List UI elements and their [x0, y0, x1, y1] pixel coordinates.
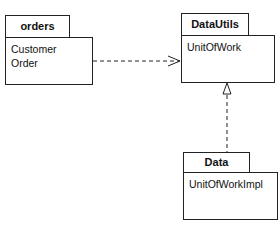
- package-tab-data-mapper: Data Mapper: [183, 152, 250, 173]
- package-tab-orders: orders: [5, 15, 70, 38]
- class-item: UnitOfWork: [187, 40, 269, 54]
- class-item: UnitOfWorkImpl: [189, 177, 272, 191]
- class-item: Order: [11, 56, 87, 70]
- package-body-orders: Customer Order: [5, 37, 93, 85]
- class-item: Customer: [11, 42, 87, 56]
- package-name: orders: [20, 20, 54, 32]
- package-body-datautils: UnitOfWork: [181, 35, 275, 83]
- hollow-triangle-icon: [223, 83, 231, 94]
- package-name: DataUtils: [191, 18, 239, 30]
- package-tab-datautils: DataUtils: [181, 13, 249, 36]
- package-body-data-mapper: UnitOfWorkImpl: [183, 172, 278, 220]
